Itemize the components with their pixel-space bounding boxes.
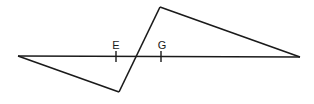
top-to-right-edge [160, 7, 300, 57]
baseline-segment [18, 56, 300, 57]
label-g: G [158, 39, 167, 51]
bottom-to-top-edge [119, 7, 160, 92]
left-to-bottom-edge [18, 56, 119, 92]
label-e: E [112, 39, 119, 51]
geometry-diagram: E G [0, 0, 314, 104]
